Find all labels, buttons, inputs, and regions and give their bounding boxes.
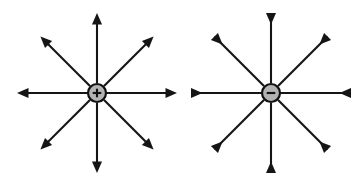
positive-charge-diagram: + — [17, 13, 177, 173]
electric-field-figure: + − — [0, 0, 362, 183]
figure-background — [0, 0, 362, 183]
negative-charge-diagram: − — [191, 13, 351, 173]
field-diagram-canvas: + − — [0, 0, 362, 183]
